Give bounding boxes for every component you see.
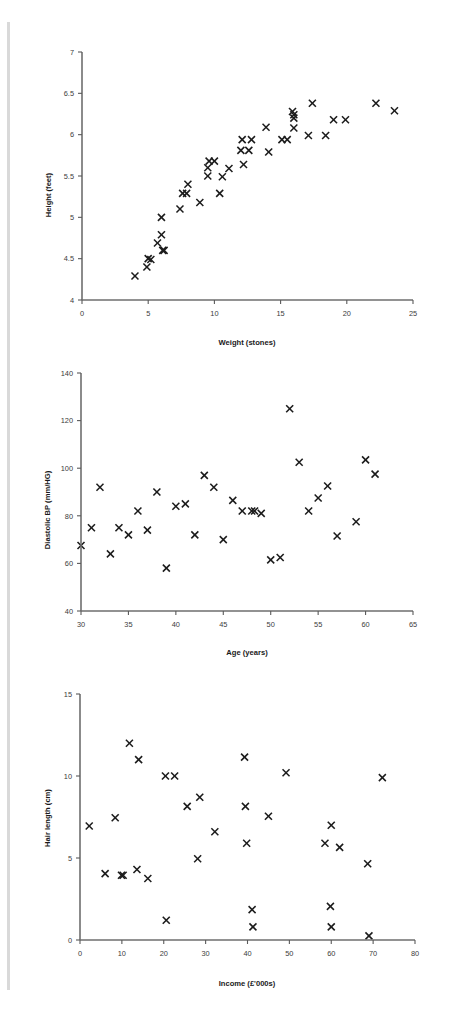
plot-area-2: [78, 405, 379, 571]
y-axis-title-3: Hair length (cm): [43, 789, 52, 847]
data-point: [219, 173, 226, 180]
data-point: [161, 247, 168, 254]
y-tick-label: 4: [70, 296, 74, 305]
y-tick-label: 5.5: [64, 172, 74, 181]
data-point: [143, 263, 150, 270]
y-tick-label: 80: [65, 512, 73, 521]
chart-bp-age: 406080100120140 3035404550556065 Age (ye…: [0, 358, 452, 678]
data-point: [305, 508, 312, 515]
data-point: [327, 903, 334, 910]
y-tick-label: 140: [61, 369, 73, 378]
data-point: [96, 484, 103, 491]
x-axis-title-1: Weight (stones): [219, 338, 276, 347]
y-tick-label: 0: [68, 936, 72, 945]
data-point: [184, 803, 191, 810]
x-tick-label: 20: [343, 309, 351, 318]
x-tick-label: 10: [210, 309, 218, 318]
x-tick-label: 55: [314, 620, 322, 629]
data-point: [216, 190, 223, 197]
data-point: [249, 906, 256, 913]
data-point: [248, 136, 255, 143]
chart-hair-income: 051015 01020304050607080 Income (£'000s)…: [0, 668, 452, 1008]
document-page: 44.555.566.57 0510152025 Weight (stones)…: [0, 0, 452, 1035]
data-point: [191, 531, 198, 538]
data-point: [211, 158, 218, 165]
data-point: [286, 405, 293, 412]
x-tick-label: 50: [267, 620, 275, 629]
data-point: [315, 494, 322, 501]
data-point: [249, 923, 256, 930]
hair-income-scatter-svg: 051015 01020304050607080 Income (£'000s)…: [0, 668, 452, 1008]
y-tick-label: 7: [70, 48, 74, 57]
x-tick-label: 35: [124, 620, 132, 629]
y-tick-label: 5: [68, 854, 72, 863]
x-axis-1: 0510152025: [80, 300, 417, 318]
data-point: [158, 231, 165, 238]
data-point: [88, 524, 95, 531]
data-point: [196, 199, 203, 206]
data-point: [154, 239, 161, 246]
data-point: [107, 550, 114, 557]
y-axis-2: 406080100120140: [61, 369, 81, 616]
data-point: [239, 508, 246, 515]
y-tick-label: 100: [61, 464, 73, 473]
data-point: [144, 875, 151, 882]
x-tick-label: 45: [219, 620, 227, 629]
bp-age-scatter-svg: 406080100120140 3035404550556065 Age (ye…: [0, 358, 452, 678]
plot-area-1: [131, 100, 398, 280]
data-point: [163, 917, 170, 924]
data-point: [372, 471, 379, 478]
data-point: [242, 803, 249, 810]
x-axis-title-2: Age (years): [226, 648, 268, 657]
data-point: [328, 923, 335, 930]
x-tick-label: 70: [369, 949, 377, 958]
x-tick-label: 0: [78, 949, 82, 958]
x-tick-label: 15: [276, 309, 284, 318]
data-point: [290, 125, 297, 132]
x-tick-label: 20: [160, 949, 168, 958]
data-point: [258, 510, 265, 517]
data-point: [336, 844, 343, 851]
data-point: [305, 132, 312, 139]
data-point: [239, 136, 246, 143]
data-point: [265, 813, 272, 820]
x-tick-label: 60: [327, 949, 335, 958]
y-tick-label: 5: [70, 213, 74, 222]
data-point: [229, 497, 236, 504]
x-axis-2: 3035404550556065: [77, 611, 417, 629]
data-point: [263, 124, 270, 131]
data-point: [284, 136, 291, 143]
y-tick-label: 60: [65, 559, 73, 568]
y-tick-label: 6: [70, 130, 74, 139]
plot-area-3: [86, 740, 386, 940]
data-point: [241, 754, 248, 761]
data-point: [211, 828, 218, 835]
data-point: [159, 247, 166, 254]
data-point: [283, 769, 290, 776]
data-point: [330, 116, 337, 123]
data-point: [102, 870, 109, 877]
data-point: [153, 489, 160, 496]
y-axis-3: 051015: [64, 690, 80, 945]
data-point: [267, 556, 274, 563]
data-point: [125, 531, 132, 538]
data-point: [134, 508, 141, 515]
data-point: [328, 822, 335, 829]
y-tick-label: 40: [65, 607, 73, 616]
data-point: [220, 536, 227, 543]
x-axis-title-3: Income (£'000s): [219, 979, 276, 988]
data-point: [265, 149, 272, 156]
data-point: [277, 554, 284, 561]
data-point: [210, 484, 217, 491]
data-point: [201, 472, 208, 479]
data-point: [362, 456, 369, 463]
data-point: [334, 533, 341, 540]
data-point: [296, 459, 303, 466]
data-point: [379, 774, 386, 781]
data-point: [204, 173, 211, 180]
data-point: [115, 524, 122, 531]
data-point: [86, 823, 93, 830]
data-point: [176, 206, 183, 213]
y-tick-label: 10: [64, 772, 72, 781]
y-axis-title-1: Height (feet): [44, 172, 53, 217]
